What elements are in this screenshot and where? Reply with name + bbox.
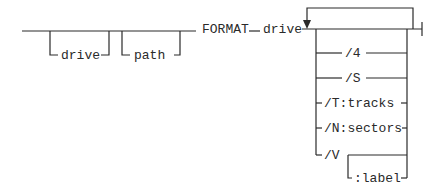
drive-argument: drive xyxy=(263,22,302,37)
option-v: /V xyxy=(324,148,340,163)
label-branch-left xyxy=(348,155,352,178)
drive-branch-right xyxy=(101,31,109,55)
path-optional-label: path xyxy=(134,48,165,63)
syntax-diagram: drive path FORMAT drive /4 /S /T:tracks … xyxy=(0,0,444,195)
option-n: /N:sectors xyxy=(324,121,402,136)
option-4: /4 xyxy=(345,46,361,61)
path-branch-left xyxy=(122,31,130,55)
repeat-loop xyxy=(307,8,413,29)
drive-optional-label: drive xyxy=(61,48,100,63)
drive-branch-left xyxy=(50,31,58,55)
repeat-arrow-icon xyxy=(303,20,311,29)
sub-option-label: :label xyxy=(354,171,401,186)
path-branch-right xyxy=(174,31,180,55)
command-keyword: FORMAT xyxy=(202,22,249,37)
option-s: /S xyxy=(345,71,361,86)
option-t: /T:tracks xyxy=(324,96,394,111)
